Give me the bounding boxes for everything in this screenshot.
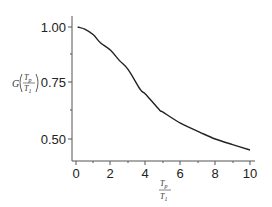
x-label-den: T1: [160, 192, 167, 202]
y-tick-label: 0.50: [41, 132, 66, 147]
data-line: [78, 27, 250, 150]
x-tick-label: 6: [176, 166, 183, 181]
left-paren: [20, 74, 22, 92]
y-tick-label: 0.75: [41, 75, 66, 90]
x-tick-label: 2: [106, 166, 113, 181]
right-paren: [36, 74, 38, 92]
chart: 1.00 0.75 0.50 0 2 4 6 8 10 G Tp T1 Tp: [0, 0, 272, 207]
y-label-den: T1: [24, 84, 31, 94]
y-label-func: G: [12, 78, 19, 89]
x-tick-label: 4: [141, 166, 148, 181]
y-ticks: 1.00 0.75 0.50: [41, 20, 72, 147]
x-tick-label: 8: [211, 166, 218, 181]
x-ticks: 0 2 4 6 8 10: [72, 161, 257, 181]
x-label-num: Tp: [160, 179, 167, 189]
y-axis-label: G Tp T1: [12, 73, 38, 94]
x-axis-label: Tp T1: [159, 179, 171, 202]
y-label-num: Tp: [24, 73, 31, 83]
y-tick-label: 1.00: [41, 20, 66, 35]
x-tick-label: 10: [243, 166, 257, 181]
x-tick-label: 0: [72, 166, 79, 181]
